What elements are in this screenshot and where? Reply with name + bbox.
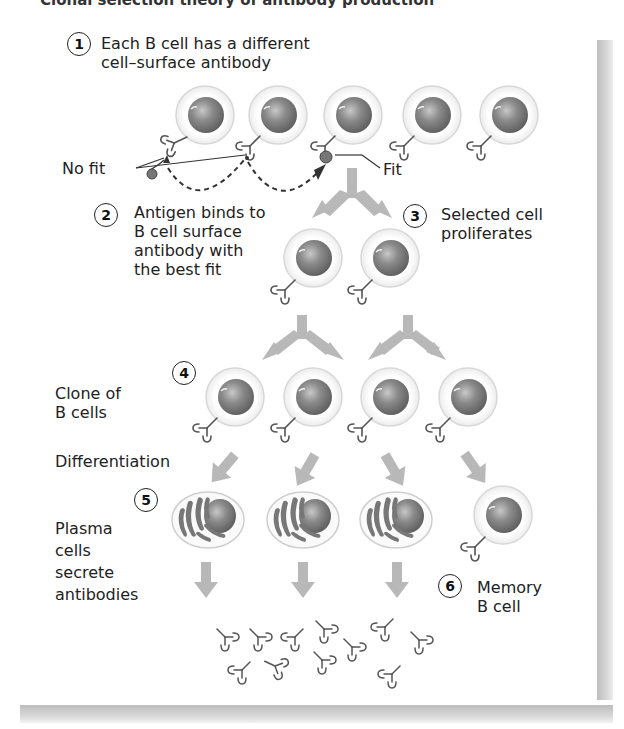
b-cell-5 (467, 86, 538, 160)
fit-label: Fit (383, 160, 402, 179)
plasma-label: Plasma cells secrete antibodies (55, 518, 138, 606)
clone-cell-3 (348, 368, 419, 442)
step-2-badge: 2 (94, 203, 118, 227)
step-5-badge: 5 (134, 488, 158, 512)
differentiation-label: Differentiation (55, 452, 170, 471)
clone-cell-2 (271, 368, 342, 442)
diagram-canvas (0, 0, 624, 729)
proliferated-cell-1 (271, 229, 342, 304)
proliferation-arrow (312, 168, 392, 218)
split-arrow-right (368, 315, 446, 360)
step-3-badge: 3 (403, 204, 427, 228)
plasma-cell-3 (360, 492, 432, 548)
step-4-badge: 4 (172, 361, 196, 385)
plasma-cell-1 (172, 492, 244, 548)
clone-label: Clone of B cells (55, 384, 121, 422)
b-cell-1 (156, 86, 234, 160)
memory-b-cell (461, 486, 532, 561)
no-fit-label: No fit (62, 159, 105, 178)
proliferated-cell-2 (348, 229, 419, 304)
step-6-badge: 6 (438, 574, 462, 598)
step-1-text: Each B cell has a different cell–surface… (101, 34, 310, 72)
plasma-cell-2 (267, 492, 339, 548)
split-arrow-left (262, 315, 344, 360)
differentiation-arrows (203, 447, 495, 492)
b-cell-2 (236, 86, 307, 160)
step-2-text: Antigen binds to B cell surface antibody… (134, 203, 265, 279)
b-cell-3-selected (311, 86, 382, 160)
clone-cell-1 (193, 368, 264, 442)
step-3-text: Selected cell proliferates (441, 205, 543, 243)
secretion-arrows (194, 562, 409, 598)
clone-cell-4 (426, 368, 497, 442)
antigen-paths (136, 151, 380, 191)
secreted-antibodies (217, 619, 433, 688)
step-6-text: Memory B cell (477, 578, 542, 616)
step-1-badge: 1 (67, 32, 91, 56)
b-cell-4 (390, 86, 461, 160)
